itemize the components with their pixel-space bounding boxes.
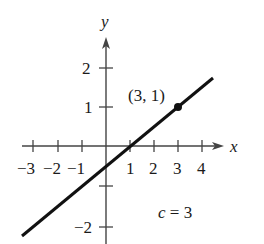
x-tick-label: 3 [173,159,182,178]
x-axis-label: x [229,137,238,156]
x-tick-label: 4 [197,159,206,178]
x-tick-label: −2 [43,159,61,178]
y-axis-label: y [99,12,109,31]
data-point [174,103,182,111]
y-tick-label: −2 [74,218,92,237]
y-tick-label: 1 [84,98,93,117]
point-label: (3, 1) [128,86,165,105]
x-tick-label: −3 [17,159,35,178]
x-tick-label: 2 [149,159,158,178]
x-tick-label: −1 [67,159,85,178]
param-label: c = 3 [158,203,192,222]
y-tick-label: 2 [82,59,91,78]
x-tick-label: 1 [126,159,135,178]
graph: −3 −2 −1 1 2 3 4 2 1 −2 x y (3, 1) c = 3 [0,0,264,244]
